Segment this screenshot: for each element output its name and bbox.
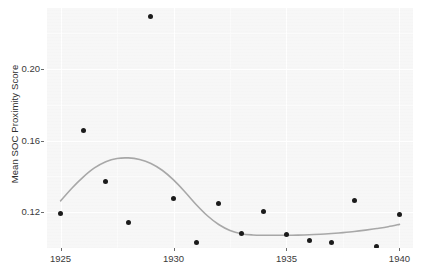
gridline-x-major [174, 8, 175, 248]
gridline-x-minor [343, 8, 344, 248]
x-tick-mark [61, 248, 62, 251]
data-point [307, 238, 312, 243]
x-tick-mark [174, 248, 175, 251]
x-tick-label: 1925 [38, 254, 84, 264]
x-tick-label: 1930 [151, 254, 197, 264]
x-axis-ticks: 1925193019351940 [47, 248, 413, 280]
data-point [58, 211, 63, 216]
y-tick-label: 0.12 [6, 207, 40, 217]
data-point [171, 196, 176, 201]
plot-panel [47, 8, 413, 248]
chart-figure: Mean SOC Proximity Score 0.120.160.20 19… [0, 0, 430, 280]
data-point [194, 240, 199, 245]
data-point [81, 128, 86, 133]
data-point [126, 220, 131, 225]
data-point [397, 212, 402, 217]
y-tick-label: 0.20 [6, 64, 40, 74]
y-tick-mark [41, 141, 44, 142]
data-point [329, 240, 334, 245]
x-tick-label: 1935 [263, 254, 309, 264]
gridline-x-major [286, 8, 287, 248]
gridline-x-minor [117, 8, 118, 248]
data-point [352, 198, 357, 203]
y-axis-ticks: 0.120.160.20 [0, 0, 40, 280]
x-tick-mark [399, 248, 400, 251]
data-point [284, 232, 289, 237]
y-tick-mark [41, 69, 44, 70]
data-point [216, 201, 221, 206]
data-point [148, 14, 153, 19]
data-point [239, 231, 244, 236]
x-tick-label: 1940 [376, 254, 422, 264]
y-tick-mark [41, 212, 44, 213]
data-point [103, 179, 108, 184]
gridline-x-minor [230, 8, 231, 248]
y-tick-label: 0.16 [6, 136, 40, 146]
data-point [261, 209, 266, 214]
x-tick-mark [286, 248, 287, 251]
